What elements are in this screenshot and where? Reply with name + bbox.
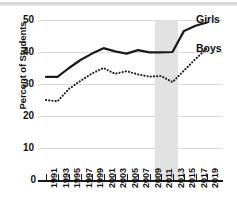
x-axis-tick <box>150 174 151 182</box>
y-axis-tick-label: 40 <box>12 47 34 57</box>
x-axis-tick <box>173 174 174 182</box>
x-axis-tick <box>184 174 185 182</box>
y-axis-tick-labels: 1020304050 <box>10 20 34 180</box>
y-axis-zero-label: 0 <box>22 174 36 185</box>
y-axis-tick-label: 20 <box>12 111 34 121</box>
series-line-boys <box>46 48 207 101</box>
x-axis-tick <box>46 174 47 182</box>
x-axis-tick <box>115 174 116 182</box>
x-axis-tick <box>81 174 82 182</box>
scan-artifact-strip-secondary <box>0 5 237 6</box>
x-axis-tick <box>207 174 208 182</box>
x-axis-tick <box>69 174 70 182</box>
y-axis-tick-label: 10 <box>12 143 34 153</box>
x-axis-tick <box>138 174 139 182</box>
x-axis-tick <box>127 174 128 182</box>
x-axis-tick <box>196 174 197 182</box>
x-axis-tick <box>92 174 93 182</box>
legend-label-girls: Girls <box>196 13 220 25</box>
y-axis-tick-label: 30 <box>12 79 34 89</box>
y-axis-tick-label: 50 <box>12 15 34 25</box>
x-axis-tick <box>161 174 162 182</box>
x-axis-tick-label: 2019 <box>211 168 220 188</box>
series-line-girls <box>46 23 207 77</box>
chart-page: Percent of Students 1020304050 0 1991199… <box>0 0 237 221</box>
legend-label-boys: Boys <box>196 42 222 54</box>
x-axis-tick <box>58 174 59 182</box>
x-axis-tick <box>104 174 105 182</box>
